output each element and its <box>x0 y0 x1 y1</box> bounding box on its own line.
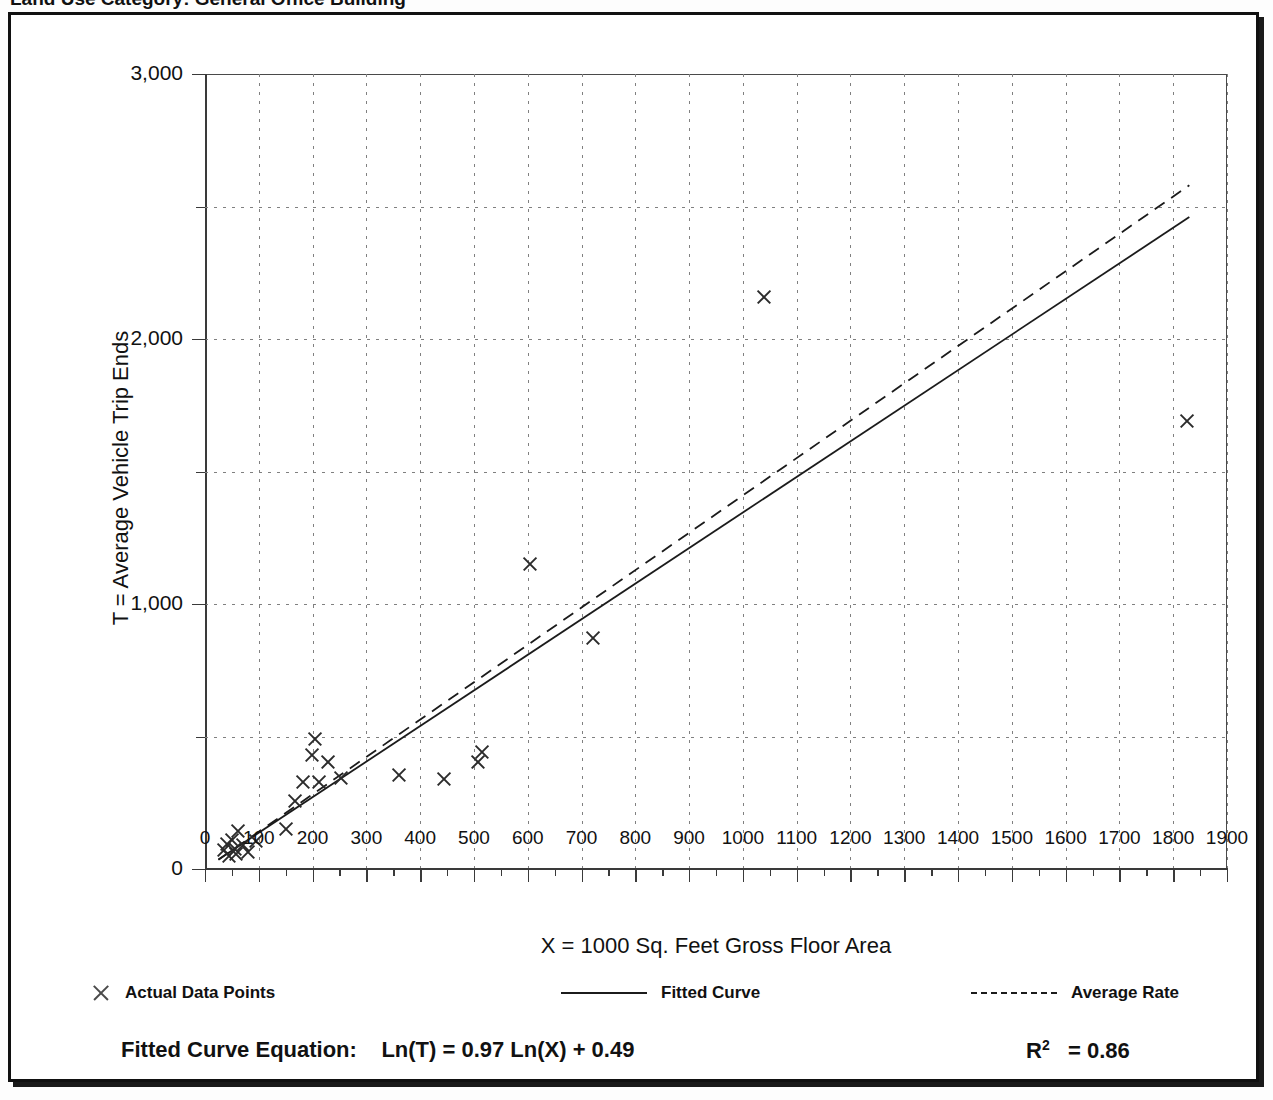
dashed-line-icon <box>971 992 1057 994</box>
x-tick <box>528 868 529 882</box>
x-tick-minor <box>339 868 340 876</box>
legend-item-average-rate: Average Rate <box>971 978 1179 1008</box>
average-rate-line <box>218 185 1189 859</box>
data-point-marker <box>1178 412 1196 430</box>
data-point-marker <box>584 629 602 647</box>
x-tick <box>850 868 851 882</box>
y-tick <box>192 604 206 605</box>
x-tick-minor <box>608 868 609 876</box>
x-axis-title: X = 1000 Sq. Feet Gross Floor Area <box>205 933 1227 959</box>
r-squared: R2 = 0.86 <box>1026 1037 1130 1064</box>
y-tick-minor <box>196 472 205 473</box>
x-tick <box>904 868 905 882</box>
data-point-marker <box>306 730 324 748</box>
cut-off-header-label: Land Use Category: General Office Buildi… <box>10 0 406 9</box>
x-tick <box>366 868 367 882</box>
x-tick <box>797 868 798 882</box>
x-tick-minor <box>877 868 878 876</box>
y-tick-minor <box>196 207 205 208</box>
x-tick <box>582 868 583 882</box>
y-tick <box>192 74 206 75</box>
x-tick <box>1227 868 1228 882</box>
data-point-marker <box>521 555 539 573</box>
r-squared-exponent: 2 <box>1042 1037 1050 1053</box>
y-tick <box>192 339 206 340</box>
x-tick-minor <box>1039 868 1040 876</box>
y-tick-label: 0 <box>53 856 183 880</box>
chart-page: Land Use Category: General Office Buildi… <box>0 0 1273 1100</box>
solid-line-icon <box>561 992 647 994</box>
legend-item-actual-data-points: Actual Data Points <box>91 978 275 1008</box>
fitted-curve-equation: Fitted Curve Equation: Ln(T) = 0.97 Ln(X… <box>121 1037 634 1063</box>
trend-lines <box>205 74 1227 869</box>
x-tick-minor <box>232 868 233 876</box>
y-tick <box>192 869 206 870</box>
data-point-marker <box>473 743 491 761</box>
x-tick-minor <box>286 868 287 876</box>
y-tick-minor <box>196 737 205 738</box>
y-axis-title: T = Average Vehicle Trip Ends <box>108 128 134 828</box>
x-tick <box>313 868 314 882</box>
x-tick <box>1173 868 1174 882</box>
cut-off-header-text: Land Use Category: General Office Buildi… <box>10 0 710 9</box>
x-tick <box>1012 868 1013 882</box>
x-tick <box>635 868 636 882</box>
vertical-gridline <box>1227 74 1228 869</box>
x-tick <box>958 868 959 882</box>
y-tick-label: 1,000 <box>53 591 183 615</box>
x-tick-minor <box>447 868 448 876</box>
x-tick-minor <box>985 868 986 876</box>
data-point-marker <box>390 766 408 784</box>
data-point-marker <box>332 769 350 787</box>
data-point-marker <box>755 288 773 306</box>
equation-row: Fitted Curve Equation: Ln(T) = 0.97 Ln(X… <box>121 1037 1231 1073</box>
x-tick-minor <box>1200 868 1201 876</box>
data-point-marker <box>286 792 304 810</box>
x-tick-minor <box>824 868 825 876</box>
chart-frame: T = Average Vehicle Trip Ends 01,0002,00… <box>8 12 1259 1082</box>
x-tick-minor <box>555 868 556 876</box>
x-tick-minor <box>931 868 932 876</box>
r-squared-value: = 0.86 <box>1068 1038 1130 1063</box>
equation-formula: Ln(T) = 0.97 Ln(X) + 0.49 <box>381 1037 634 1062</box>
fitted-curve-line <box>218 217 1189 859</box>
x-tick-minor <box>716 868 717 876</box>
chart-legend: Actual Data Points Fitted Curve Average … <box>91 978 1231 1012</box>
x-tick-minor <box>1146 868 1147 876</box>
y-tick-label: 2,000 <box>53 326 183 350</box>
x-marker-icon <box>91 983 111 1003</box>
x-tick <box>743 868 744 882</box>
y-axis-title-container: T = Average Vehicle Trip Ends <box>71 75 111 815</box>
x-tick-minor <box>770 868 771 876</box>
x-tick-minor <box>662 868 663 876</box>
legend-label-2: Average Rate <box>1071 983 1179 1003</box>
x-tick <box>689 868 690 882</box>
x-tick-label: 1900 <box>1187 827 1267 849</box>
equation-label: Fitted Curve Equation: <box>121 1037 357 1062</box>
data-point-marker <box>435 770 453 788</box>
legend-item-fitted-curve: Fitted Curve <box>561 978 760 1008</box>
x-tick <box>1119 868 1120 882</box>
x-tick <box>420 868 421 882</box>
x-tick-minor <box>1093 868 1094 876</box>
data-point-marker <box>310 773 328 791</box>
legend-label-0: Actual Data Points <box>125 983 275 1003</box>
x-tick-minor <box>393 868 394 876</box>
legend-label-1: Fitted Curve <box>661 983 760 1003</box>
x-tick-minor <box>501 868 502 876</box>
x-tick <box>259 868 260 882</box>
plot-area: 01,0002,0003,000 <box>205 74 1227 869</box>
x-tick <box>474 868 475 882</box>
r-squared-label: R <box>1026 1038 1042 1063</box>
x-tick <box>1066 868 1067 882</box>
y-tick-label: 3,000 <box>53 61 183 85</box>
